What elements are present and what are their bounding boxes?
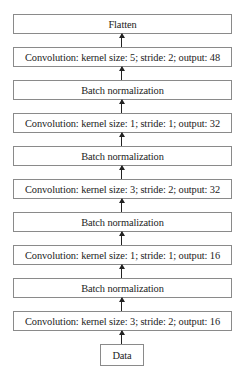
arrow-up-icon	[121, 331, 122, 344]
layer-batchnorm-4: Batch normalization	[13, 80, 232, 100]
layer-conv-4: Convolution: kernel size: 1; stride: 1; …	[13, 113, 232, 133]
arrow-up-icon	[121, 133, 122, 146]
arrow-up-icon	[121, 199, 122, 212]
layer-batchnorm-3: Batch normalization	[13, 146, 232, 166]
layer-conv-3: Convolution: kernel size: 3; stride: 2; …	[13, 179, 232, 199]
layer-batchnorm-2: Batch normalization	[13, 212, 232, 232]
layer-conv-1: Convolution: kernel size: 3; stride: 2; …	[13, 311, 232, 331]
arrow-up-icon	[121, 100, 122, 113]
arrow-up-icon	[121, 265, 122, 278]
arrow-up-icon	[121, 67, 122, 80]
layer-conv-5: Convolution: kernel size: 5; stride: 2; …	[13, 47, 232, 67]
layer-conv-2: Convolution: kernel size: 1; stride: 1; …	[13, 245, 232, 265]
input-data: Data	[100, 344, 144, 366]
arrow-up-icon	[121, 232, 122, 245]
layer-flatten: Flatten	[13, 14, 232, 34]
arrow-up-icon	[121, 34, 122, 48]
arrow-up-icon	[121, 298, 122, 311]
arrow-up-icon	[121, 166, 122, 179]
layer-batchnorm-1: Batch normalization	[13, 278, 232, 298]
